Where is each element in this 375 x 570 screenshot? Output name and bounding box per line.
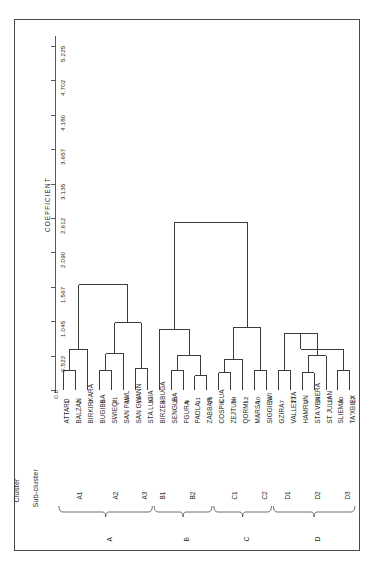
leaf-name: ZEJTUN [230,398,237,423]
cluster-label: C [242,537,249,542]
axis-title-coefficient: COEFFICIENT [44,177,51,232]
subcluster-label: A1 [75,492,82,500]
subcluster-label: C2 [260,491,267,499]
cluster-brace [214,506,272,517]
leaf-name: COSPICUA [218,389,225,423]
leaf-name: SIGGIEWI [265,393,272,424]
subcluster-label: A2 [111,492,118,500]
leaf-name: PAOLA [194,402,201,423]
leaf-name: STA LUCIA [146,390,153,423]
subcluster-label: B2 [189,492,196,500]
subcluster-label: C1 [230,491,237,499]
subcluster-label: B1 [159,492,166,500]
leaf-name: MARSA [254,400,261,423]
leaf-name: TA'XBIEX [349,395,356,424]
cluster-brace [154,506,212,517]
leaf-name: BIRKIRKARA [87,384,94,424]
dendrogram-lines [55,40,360,390]
leaf-name: SWIEQI [111,400,118,424]
leaf-name: SAN PAWL [123,390,130,423]
axis-tick-label: 0.0 [52,390,59,399]
leaf-name: BALZAN [75,398,82,423]
leaf-name: SLIEMA [337,400,344,424]
row-label-cluster: Cluster [12,478,21,502]
leaf-name: STA VENERA [313,383,320,424]
leaf-name: FGURA [182,401,189,424]
leaf-name: VALLETTA [289,392,296,424]
subcluster-label: A3 [141,492,148,500]
leaf-name: ATTARD [63,398,70,423]
cluster-label: D [314,537,321,542]
leaf-name: ZABBAR [206,397,213,423]
leaf-name: GZIRA [277,404,284,424]
leaf-name: HAMRUN [301,395,308,424]
row-label-subcluster: Sub-cluster [31,469,40,508]
dendrogram-page: 0.00.5221.0451.5672.0902.6123.1353.6574.… [0,0,375,570]
leaf-name: SAN GWANN [134,384,141,424]
leaf-name: ST JULIAN [325,391,332,424]
leaf-name: SENGLEA [170,393,177,424]
leaf-name: BIRZEBBUGA [158,381,165,423]
leaf-name: QORMI [242,401,249,423]
subcluster-label: D1 [284,491,291,499]
cluster-brace [273,506,354,517]
cluster-brace [59,506,152,517]
subcluster-label: D2 [314,491,321,499]
subcluster-label: D3 [343,491,350,499]
cluster-label: A [105,537,112,541]
cluster-braces [55,505,360,525]
leaf-name: BUGIBBA [99,394,106,423]
dendrogram-plot [55,40,360,390]
cluster-label: B [183,537,190,541]
